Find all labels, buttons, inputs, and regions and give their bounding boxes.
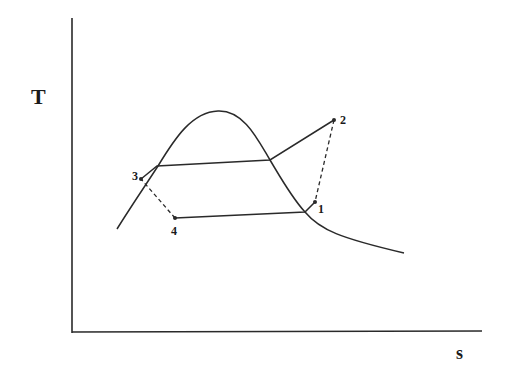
point-label-2: 2 — [340, 114, 346, 126]
point-label-4: 4 — [171, 225, 177, 237]
process-4-to-3 — [141, 179, 175, 218]
process-2-to-1 — [315, 120, 334, 202]
ts-diagram — [0, 0, 506, 379]
y-axis-label: T — [31, 86, 46, 108]
state-point-1 — [313, 200, 317, 204]
x-axis — [72, 331, 482, 332]
saturation-dome — [117, 111, 404, 253]
point-label-1: 1 — [318, 203, 324, 215]
point-label-3: 3 — [132, 170, 138, 182]
state-point-4 — [173, 216, 177, 220]
state-point-3 — [139, 177, 143, 181]
x-axis-label: s — [456, 344, 463, 362]
state-point-2 — [332, 118, 336, 122]
cycle-solid-lines — [141, 120, 334, 218]
state-points — [139, 118, 336, 220]
process-1-to-4 — [175, 202, 315, 218]
process-3-to-2 — [141, 120, 334, 179]
cycle-dashed-lines — [141, 120, 334, 218]
